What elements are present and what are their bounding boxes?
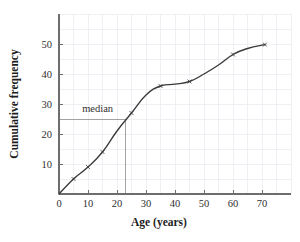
median-annotation: median — [82, 103, 114, 114]
x-tick-label: 60 — [228, 198, 239, 209]
x-tick-label: 20 — [112, 198, 123, 209]
median-label: median — [82, 103, 114, 114]
x-tick-label: 10 — [83, 198, 94, 209]
y-tick-label: 10 — [42, 159, 53, 170]
x-tick-label: 70 — [257, 198, 268, 209]
x-tick-label: 40 — [170, 198, 181, 209]
y-axis-title: Cumulative frequency — [8, 49, 21, 159]
x-tick-label: 30 — [141, 198, 152, 209]
x-tick-label: 50 — [199, 198, 210, 209]
chart-plot-area: 010203040506070 1020304050 median Age (y… — [0, 0, 300, 242]
x-axis-title: Age (years) — [131, 216, 187, 229]
cumulative-frequency-chart: 010203040506070 1020304050 median Age (y… — [0, 0, 300, 242]
y-tick-label: 40 — [42, 69, 53, 80]
y-tick-label: 30 — [42, 99, 53, 110]
x-tick-label: 0 — [56, 198, 61, 209]
y-tick-label: 50 — [42, 39, 53, 50]
y-tick-label: 20 — [42, 129, 53, 140]
